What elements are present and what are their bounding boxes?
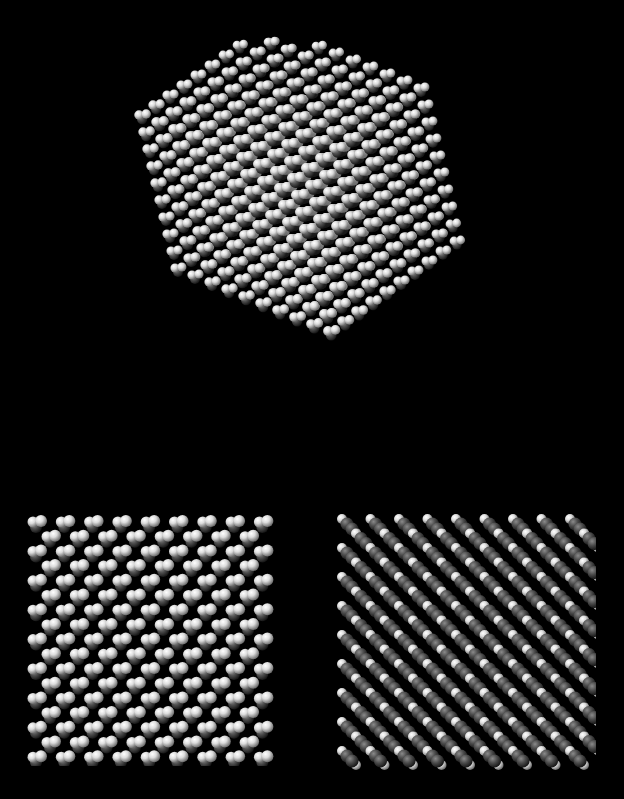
atom-sphere [227, 144, 237, 154]
atom-sphere [242, 57, 251, 66]
atom-sphere [63, 574, 75, 586]
atom-sphere [49, 530, 61, 542]
atom-sphere [220, 110, 229, 119]
atom-sphere [49, 736, 61, 748]
atom-sphere [271, 270, 281, 280]
atom-sphere [261, 691, 273, 703]
atom-sphere [440, 168, 449, 177]
atom-sphere [134, 736, 146, 748]
atom-sphere [148, 544, 160, 556]
atom-sphere [317, 196, 327, 206]
atom-sphere [280, 304, 290, 314]
atom-sphere [251, 107, 260, 116]
atom-sphere [175, 123, 185, 133]
atom-sphere [224, 266, 233, 275]
atom-sphere [341, 298, 351, 308]
atom-sphere [197, 69, 206, 78]
atom-sphere [350, 271, 360, 281]
atom-sphere [63, 662, 75, 674]
atom-sphere [330, 108, 339, 117]
atom-sphere [92, 603, 104, 615]
atom-sphere [35, 721, 47, 733]
atom-sphere [191, 191, 200, 200]
atom-sphere [420, 221, 429, 230]
atom-sphere [205, 691, 217, 703]
atom-sphere [295, 172, 305, 182]
atom-sphere [203, 242, 212, 251]
atom-sphere [35, 691, 47, 703]
atom-sphere [286, 121, 296, 131]
atom-sphere [235, 178, 245, 188]
atom-sphere [134, 589, 146, 601]
atom-sphere [219, 706, 231, 718]
atom-sphere [219, 589, 231, 601]
atom-sphere [293, 77, 302, 86]
atom-sphere [310, 301, 320, 311]
atom-sphere [354, 288, 364, 298]
atom-sphere [77, 559, 89, 571]
atom-sphere [426, 177, 435, 186]
atom-sphere [63, 721, 75, 733]
atom-sphere [309, 162, 319, 172]
atom-sphere [162, 559, 174, 571]
atom-sphere [356, 227, 366, 237]
atom-sphere [177, 691, 189, 703]
atom-sphere [212, 215, 221, 224]
atom-sphere [148, 691, 160, 703]
atom-sphere [177, 633, 189, 645]
atom-sphere [327, 308, 337, 318]
atom-sphere [255, 263, 265, 273]
atom-sphere [424, 238, 433, 247]
atom-sphere [418, 143, 427, 152]
atom-sphere [273, 54, 282, 63]
atom-sphere [386, 146, 395, 155]
atom-sphere [331, 325, 341, 335]
atom-sphere [303, 206, 313, 216]
atom-sphere [180, 140, 190, 150]
atom-sphere [299, 111, 308, 120]
atom-sphere [191, 647, 203, 659]
atom-sphere [248, 90, 257, 99]
atom-sphere [261, 544, 273, 556]
atom-sphere [165, 211, 174, 220]
atom-sphere [205, 515, 217, 527]
atom-sphere [347, 254, 357, 264]
atom-sphere [281, 243, 291, 253]
atom-sphere [317, 118, 327, 128]
atom-sphere [424, 99, 433, 108]
atom-sphere [352, 55, 361, 64]
atom-sphere [386, 69, 395, 78]
atom-sphere [256, 202, 266, 212]
atom-sphere [157, 177, 166, 186]
atom-sphere [233, 721, 245, 733]
atom-sphere [416, 204, 425, 213]
atom-sphere [311, 240, 321, 250]
atom-sphere [186, 235, 195, 244]
atom-sphere [369, 62, 378, 71]
atom-sphere [177, 262, 186, 271]
atom-sphere [321, 58, 330, 67]
atom-sphere [324, 74, 333, 83]
atom-sphere [49, 559, 61, 571]
atom-sphere [120, 750, 132, 762]
atom-sphere [343, 237, 353, 247]
atom-sphere [203, 103, 212, 112]
atom-sphere [63, 750, 75, 762]
atom-sphere [233, 633, 245, 645]
atom-sphere [335, 203, 345, 213]
atom-sphere [247, 618, 259, 630]
atom-sphere [460, 755, 473, 768]
atom-sphere [35, 574, 47, 586]
atom-sphere [120, 662, 132, 674]
atom-sphere [77, 530, 89, 542]
atom-sphere [219, 736, 231, 748]
atom-sphere [370, 217, 379, 226]
atom-sphere [205, 603, 217, 615]
atom-sphere [402, 214, 411, 223]
atom-sphere [261, 574, 273, 586]
atom-sphere [49, 618, 61, 630]
atom-sphere [375, 95, 384, 104]
atom-sphere [314, 318, 324, 328]
atom-sphere [219, 530, 231, 542]
atom-sphere [172, 106, 181, 115]
